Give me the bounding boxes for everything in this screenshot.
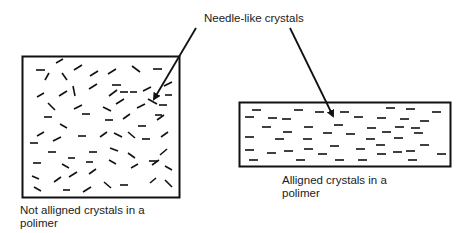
left-caption: Not alligned crystals in a polimer xyxy=(20,204,145,230)
right-caption: Alligned crystals in a polimer xyxy=(282,174,387,200)
aligned-needles xyxy=(245,108,446,160)
right-caption-line1: Alligned crystals in a xyxy=(282,174,387,187)
random-needles xyxy=(30,59,172,192)
left-caption-line2: polimer xyxy=(20,217,145,230)
right-caption-line2: polimer xyxy=(282,187,387,200)
diagram-title: Needle-like crystals xyxy=(204,12,304,25)
left-caption-line1: Not alligned crystals in a xyxy=(20,204,145,217)
diagram-canvas xyxy=(0,0,470,233)
arrow-to-left-box xyxy=(154,28,196,99)
